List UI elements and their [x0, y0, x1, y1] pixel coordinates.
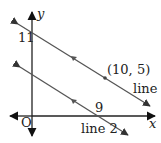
origin-label: O — [21, 115, 32, 130]
y-intercept-label: 11 — [18, 30, 35, 45]
line-2-label: line 2 — [81, 121, 118, 136]
line-2-direction-arrow — [71, 99, 77, 104]
y-axis-label: y — [36, 6, 45, 21]
x-intercept-label: 9 — [95, 100, 103, 115]
line-1-label: line 1 — [133, 81, 161, 96]
coordinate-diagram: y x O 11 (10, 5) line 1 9 line 2 — [0, 0, 161, 143]
x-axis-label: x — [149, 116, 157, 131]
point-label: (10, 5) — [107, 62, 150, 77]
